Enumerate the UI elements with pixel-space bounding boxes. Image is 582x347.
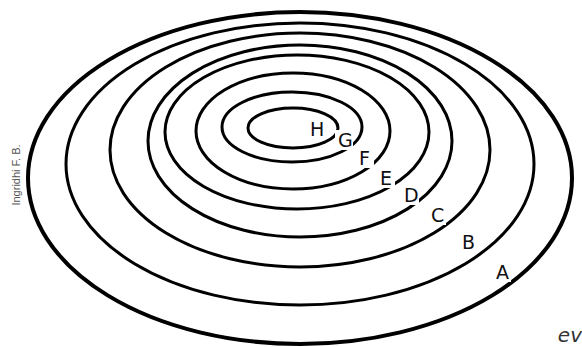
ring-b — [66, 23, 534, 305]
ellipse-rings — [28, 12, 572, 344]
ring-g — [222, 92, 362, 162]
ring-c — [110, 33, 490, 267]
ring-label-h: H — [310, 118, 324, 140]
ring-a — [28, 12, 572, 344]
ring-label-c: C — [431, 204, 444, 226]
ring-label-d: D — [404, 184, 419, 206]
concentric-ellipse-diagram: ABCDEFGH — [0, 0, 582, 347]
ring-labels: ABCDEFGH — [307, 118, 511, 283]
ring-label-a: A — [496, 261, 509, 283]
ring-label-b: B — [462, 231, 475, 253]
ring-label-g: G — [338, 129, 353, 151]
watermark-text: ev — [558, 323, 582, 347]
author-credit: Ingridhi F. B. — [10, 144, 22, 205]
ring-label-f: F — [359, 147, 370, 169]
ring-label-e: E — [380, 167, 392, 189]
